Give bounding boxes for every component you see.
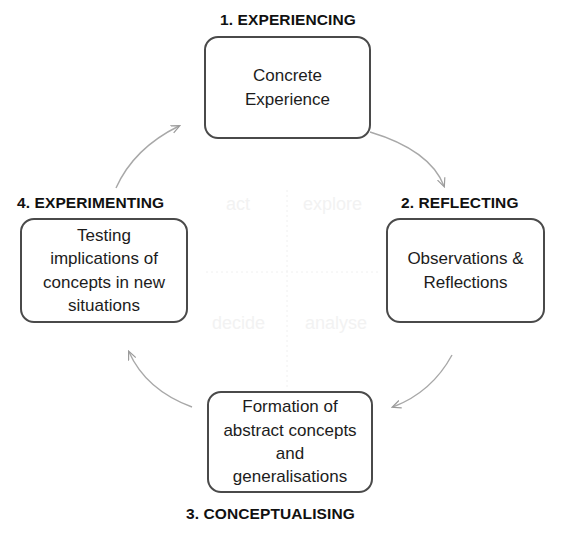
arrow-reflecting-to-conceptualising (393, 355, 452, 407)
stage-text-reflecting: Observations & Reflections (401, 247, 529, 294)
stage-label-experiencing: 1. EXPERIENCING (205, 11, 371, 29)
centre-word-act: act (226, 194, 250, 215)
centre-word-decide: decide (212, 313, 265, 334)
arrow-experimenting-to-experiencing (116, 126, 179, 188)
stage-label-experimenting: 4. EXPERIMENTING (17, 194, 164, 212)
stage-label-reflecting: 2. REFLECTING (401, 194, 519, 212)
centre-word-explore: explore (303, 194, 362, 215)
stage-label-conceptualising: 3. CONCEPTUALISING (186, 505, 355, 523)
stage-box-experiencing: Concrete Experience (204, 36, 371, 139)
stage-text-conceptualising: Formation of abstract concepts and gener… (217, 395, 362, 489)
centre-word-analyse: analyse (305, 313, 367, 334)
stage-box-conceptualising: Formation of abstract concepts and gener… (207, 391, 373, 493)
diagram-canvas: act explore decide analyse 1. EXPERIENCI… (0, 0, 566, 553)
stage-text-experimenting: Testing implications of concepts in new … (37, 224, 171, 318)
arrow-experiencing-to-reflecting (370, 132, 444, 186)
stage-box-reflecting: Observations & Reflections (386, 218, 545, 323)
stage-text-experiencing: Concrete Experience (239, 64, 336, 111)
stage-box-experimenting: Testing implications of concepts in new … (20, 218, 188, 323)
arrow-conceptualising-to-experimenting (129, 352, 192, 407)
